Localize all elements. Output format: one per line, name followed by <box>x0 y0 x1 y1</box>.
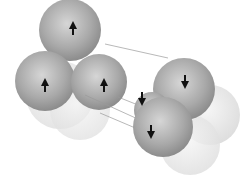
sphere-down-front <box>133 97 193 157</box>
left-cluster <box>15 0 127 140</box>
spin-cluster-diagram <box>0 0 242 189</box>
sphere-up-left <box>15 51 75 111</box>
right-cluster <box>133 58 240 175</box>
